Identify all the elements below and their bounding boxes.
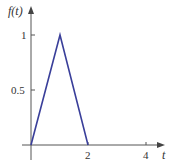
- x-axis-label: t: [162, 149, 165, 161]
- x-tick-label-4: 4: [143, 150, 149, 161]
- x-tick-label-2: 2: [85, 150, 91, 161]
- y-tick-label-1: 1: [21, 30, 27, 41]
- y-axis-arrow-icon: [28, 6, 34, 14]
- y-tick-label-05: 0.5: [11, 85, 25, 96]
- y-axis-label: f(t): [8, 5, 23, 17]
- chart-canvas: [0, 0, 175, 168]
- triangle-pulse-curve: [31, 35, 88, 145]
